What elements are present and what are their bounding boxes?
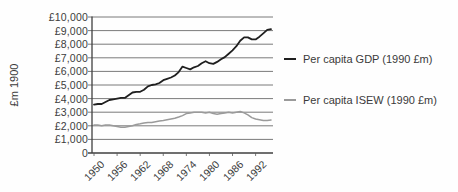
y-tick-label: £8,000	[40, 38, 88, 50]
y-tick-label: £10,000	[40, 11, 88, 23]
legend-label-gdp: Per capita GDP (1990 £m)	[303, 53, 432, 65]
y-tick-label: £3,000	[40, 106, 88, 118]
y-tick-label: £1,000	[40, 133, 88, 145]
gdp-line-swatch-icon	[284, 58, 296, 60]
isew-line	[94, 112, 271, 128]
y-tick-label: £5,000	[40, 79, 88, 91]
y-axis-title: £m 1900	[8, 64, 20, 107]
y-tick-label: £7,000	[40, 52, 88, 64]
isew-gdp-chart: 0£1,000£2,000£3,000£4,000£5,000£6,000£7,…	[0, 0, 458, 192]
legend-label-isew: Per capita ISEW (1990 £m)	[303, 94, 437, 106]
y-tick-label: £6,000	[40, 65, 88, 77]
y-tick-label: £4,000	[40, 93, 88, 105]
isew-line-swatch-icon	[284, 99, 296, 101]
y-tick-label: £2,000	[40, 120, 88, 132]
y-tick-label: £9,000	[40, 25, 88, 37]
legend-item-isew: Per capita ISEW (1990 £m)	[284, 94, 437, 106]
legend-item-gdp: Per capita GDP (1990 £m)	[284, 53, 432, 65]
gdp-line	[94, 29, 271, 105]
y-tick-label: 0	[40, 147, 88, 159]
